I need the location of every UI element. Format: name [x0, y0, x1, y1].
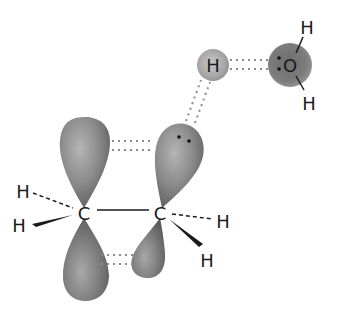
right-bottom-lobe: [131, 218, 165, 278]
h-left-top-label: H: [16, 181, 30, 202]
carbon-lone-pair-dot: [177, 135, 181, 139]
left-top-lobe: [60, 117, 110, 208]
molecular-orbital-diagram: H O H H C C H H H H: [0, 0, 340, 321]
carbon-left-label: C: [78, 203, 91, 224]
h-right-dashed-label: H: [216, 211, 230, 232]
hydrogen-bond-h-o: [230, 60, 269, 69]
oxygen-lone-pair-dot: [277, 56, 281, 60]
left-c-h-wedge-bond: [32, 215, 73, 227]
oxygen-label: O: [283, 55, 297, 76]
h-right-wedge-label: H: [200, 250, 214, 271]
carbon-right-label: C: [154, 203, 167, 224]
h-left-bottom-label: H: [12, 215, 26, 236]
left-bottom-lobe: [63, 218, 109, 301]
left-c-h-dashed-bond: [33, 193, 73, 208]
h-water-bottom-label: H: [302, 93, 316, 114]
bridging-hydrogen: H: [197, 49, 229, 81]
pi-overlap-top: [112, 141, 154, 150]
right-carbon-p-orbital: [131, 124, 203, 278]
oxygen-lone-pair-dot: [277, 67, 281, 71]
h-water-top-label: H: [300, 17, 314, 38]
lone-pair-to-h-interaction: [186, 80, 210, 123]
right-c-h-dashed-bond: [172, 214, 213, 219]
carbon-lone-pair-dot: [187, 139, 191, 143]
h-bridging-label: H: [206, 55, 220, 76]
right-c-h-wedge-bond: [169, 219, 203, 247]
water-oxygen: O: [268, 37, 312, 90]
